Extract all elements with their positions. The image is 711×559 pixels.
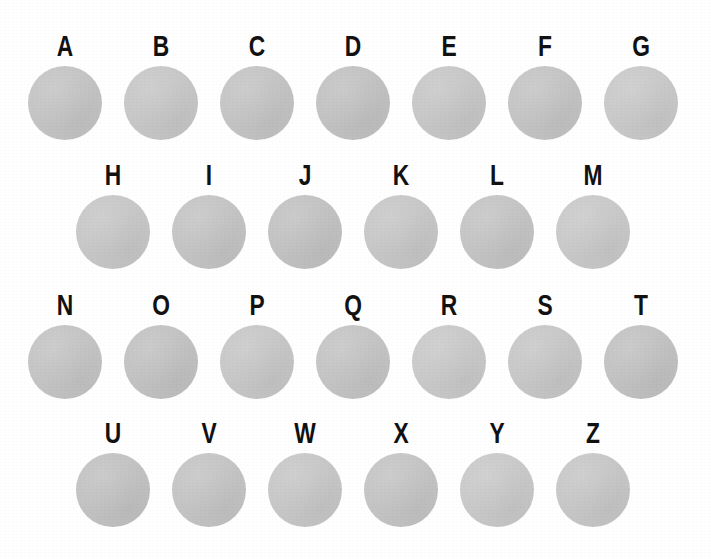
- gray-circle-icon-o[interactable]: [124, 325, 198, 399]
- gray-circle-icon-w[interactable]: [268, 453, 342, 527]
- circle-cell-c[interactable]: C: [209, 31, 305, 162]
- circle-label-f: F: [509, 31, 582, 61]
- gray-circle-icon-d[interactable]: [316, 66, 390, 140]
- gray-circle-icon-h[interactable]: [76, 195, 150, 269]
- gray-circle-icon-r[interactable]: [412, 325, 486, 399]
- circle-label-t: T: [605, 290, 678, 320]
- gray-circle-icon-m[interactable]: [556, 195, 630, 269]
- circle-cell-z[interactable]: Z: [545, 418, 641, 549]
- circle-label-i: I: [173, 160, 246, 190]
- circle-cell-t[interactable]: T: [593, 290, 689, 421]
- gray-circle-icon-t[interactable]: [604, 325, 678, 399]
- circle-label-x: X: [365, 418, 438, 448]
- circle-label-o: O: [125, 290, 198, 320]
- circle-cell-d[interactable]: D: [305, 31, 401, 162]
- gray-circle-icon-u[interactable]: [76, 453, 150, 527]
- circle-label-y: Y: [461, 418, 534, 448]
- gray-circle-icon-z[interactable]: [556, 453, 630, 527]
- gray-circle-icon-l[interactable]: [460, 195, 534, 269]
- row-2: HIJKLM: [0, 160, 711, 291]
- circle-cell-q[interactable]: Q: [305, 290, 401, 421]
- circle-cell-n[interactable]: N: [17, 290, 113, 421]
- circle-cell-b[interactable]: B: [113, 31, 209, 162]
- circle-label-a: A: [29, 31, 102, 61]
- gray-circle-icon-j[interactable]: [268, 195, 342, 269]
- gray-circle-icon-s[interactable]: [508, 325, 582, 399]
- circle-label-s: S: [509, 290, 582, 320]
- circle-label-l: L: [461, 160, 534, 190]
- gray-circle-icon-q[interactable]: [316, 325, 390, 399]
- gray-circle-icon-y[interactable]: [460, 453, 534, 527]
- gray-circle-icon-x[interactable]: [364, 453, 438, 527]
- circle-label-r: R: [413, 290, 486, 320]
- circle-label-v: V: [173, 418, 246, 448]
- circle-cell-x[interactable]: X: [353, 418, 449, 549]
- gray-circle-icon-e[interactable]: [412, 66, 486, 140]
- circle-cell-e[interactable]: E: [401, 31, 497, 162]
- row-3: NOPQRST: [0, 290, 711, 421]
- circle-label-n: N: [29, 290, 102, 320]
- circle-cell-h[interactable]: H: [65, 160, 161, 291]
- gray-circle-icon-a[interactable]: [28, 66, 102, 140]
- circle-cell-y[interactable]: Y: [449, 418, 545, 549]
- lettered-circle-figure: ABCDEFGHIJKLMNOPQRSTUVWXYZ: [0, 0, 711, 559]
- circle-label-d: D: [317, 31, 390, 61]
- circle-label-k: K: [365, 160, 438, 190]
- circle-cell-u[interactable]: U: [65, 418, 161, 549]
- circle-cell-f[interactable]: F: [497, 31, 593, 162]
- circle-label-e: E: [413, 31, 486, 61]
- gray-circle-icon-k[interactable]: [364, 195, 438, 269]
- circle-cell-a[interactable]: A: [17, 31, 113, 162]
- circle-cell-s[interactable]: S: [497, 290, 593, 421]
- circle-cell-p[interactable]: P: [209, 290, 305, 421]
- circle-cell-j[interactable]: J: [257, 160, 353, 291]
- circle-cell-g[interactable]: G: [593, 31, 689, 162]
- circle-cell-l[interactable]: L: [449, 160, 545, 291]
- gray-circle-icon-f[interactable]: [508, 66, 582, 140]
- gray-circle-icon-p[interactable]: [220, 325, 294, 399]
- circle-label-b: B: [125, 31, 198, 61]
- row-4: UVWXYZ: [0, 418, 711, 549]
- gray-circle-icon-b[interactable]: [124, 66, 198, 140]
- circle-cell-v[interactable]: V: [161, 418, 257, 549]
- circle-label-j: J: [269, 160, 342, 190]
- circle-cell-o[interactable]: O: [113, 290, 209, 421]
- gray-circle-icon-i[interactable]: [172, 195, 246, 269]
- circle-label-m: M: [557, 160, 630, 190]
- gray-circle-icon-v[interactable]: [172, 453, 246, 527]
- circle-cell-i[interactable]: I: [161, 160, 257, 291]
- circle-cell-w[interactable]: W: [257, 418, 353, 549]
- circle-label-p: P: [221, 290, 294, 320]
- circle-label-c: C: [221, 31, 294, 61]
- circle-label-w: W: [269, 418, 342, 448]
- gray-circle-icon-n[interactable]: [28, 325, 102, 399]
- circle-cell-m[interactable]: M: [545, 160, 641, 291]
- circle-label-h: H: [77, 160, 150, 190]
- circle-label-q: Q: [317, 290, 390, 320]
- gray-circle-icon-c[interactable]: [220, 66, 294, 140]
- circle-label-z: Z: [557, 418, 630, 448]
- row-1: ABCDEFG: [0, 31, 711, 162]
- circle-cell-r[interactable]: R: [401, 290, 497, 421]
- gray-circle-icon-g[interactable]: [604, 66, 678, 140]
- circle-label-u: U: [77, 418, 150, 448]
- circle-cell-k[interactable]: K: [353, 160, 449, 291]
- circle-label-g: G: [605, 31, 678, 61]
